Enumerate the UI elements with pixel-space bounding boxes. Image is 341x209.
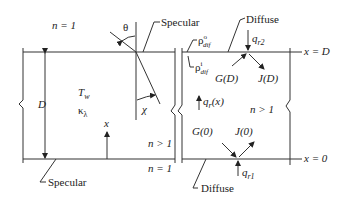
right-edge-break bbox=[286, 48, 290, 165]
rho-inner-label: ρidif bbox=[195, 60, 209, 76]
absorption-label: κλ bbox=[78, 104, 88, 119]
top-specular-leader bbox=[143, 22, 160, 52]
bottom-medium-label: n = 1 bbox=[148, 162, 172, 174]
theta-label: θ bbox=[123, 21, 128, 33]
rho-outer-label: ρodif bbox=[198, 33, 211, 49]
slab-diagram: n = 1 n = 1 n > 1 Tw κλ D x θ χ Specular… bbox=[0, 0, 341, 209]
left-edge-break bbox=[19, 48, 23, 163]
bottom-specular-label: Specular bbox=[48, 176, 87, 188]
top-medium-label: n = 1 bbox=[52, 19, 76, 31]
thickness-label: D bbox=[37, 98, 46, 110]
bottom-diffuse-label: Diffuse bbox=[201, 182, 234, 194]
x-equals-0-label: x = 0 bbox=[303, 152, 328, 164]
flux-top-label: qr2 bbox=[252, 32, 265, 47]
chi-arc bbox=[137, 95, 155, 100]
top-diffuse-label: Diffuse bbox=[246, 13, 279, 25]
incident-ray bbox=[110, 32, 136, 52]
rho-outer-leader bbox=[187, 40, 197, 52]
top-diffuse-leader bbox=[228, 18, 245, 52]
rho-inner-leader bbox=[188, 56, 194, 67]
theta-arc bbox=[122, 36, 135, 41]
temperature-label: Tw bbox=[78, 86, 90, 101]
break-line-2 bbox=[178, 48, 182, 163]
J-top-label: J(D) bbox=[258, 72, 278, 85]
G-bottom-arrow bbox=[222, 143, 236, 157]
J-bottom-label: J(0) bbox=[235, 125, 253, 138]
break-marks bbox=[171, 48, 182, 163]
x-axis-label: x bbox=[103, 117, 109, 129]
J-bottom-arrow bbox=[239, 142, 254, 157]
top-specular-label: Specular bbox=[161, 16, 200, 28]
flux-bottom-label: qr1 bbox=[242, 166, 255, 181]
interior-medium-label: n > 1 bbox=[148, 137, 172, 149]
J-top-arrow bbox=[249, 54, 264, 69]
G-top-label: G(D) bbox=[215, 72, 239, 85]
left-slab: n = 1 n = 1 n > 1 Tw κλ D x θ χ Specular… bbox=[19, 16, 200, 188]
right-slab: Diffuse Diffuse qr2 qr1 qr(x) G(D) J(D) … bbox=[182, 13, 330, 194]
G-top-arrow bbox=[232, 54, 246, 66]
x-equals-D-label: x = D bbox=[303, 45, 330, 57]
G-bottom-label: G(0) bbox=[192, 125, 213, 138]
flux-x-label: qr(x) bbox=[203, 95, 224, 110]
right-interior-medium-label: n > 1 bbox=[250, 103, 274, 115]
chi-label: χ bbox=[141, 103, 148, 115]
